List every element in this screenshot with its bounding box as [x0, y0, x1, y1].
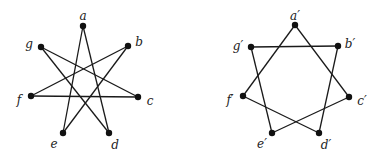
vertex-label-b: b [135, 35, 143, 49]
vertex-a [80, 23, 86, 29]
vertex-bp [335, 43, 341, 49]
vertex-label-c: c [147, 94, 154, 108]
vertex-label-e: e [50, 137, 57, 151]
vertex-label-ap: a′ [290, 9, 300, 23]
edge-ap-cp [295, 25, 349, 97]
edge-fp-dp [243, 96, 319, 133]
vertex-label-ep: e′ [257, 137, 267, 151]
vertex-f [28, 93, 34, 99]
vertex-e [60, 130, 66, 136]
vertex-label-gp: g′ [233, 39, 244, 53]
vertex-label-a: a [79, 9, 86, 23]
edge-f-c [31, 96, 138, 97]
edge-ep-cp [272, 97, 349, 133]
vertex-ep [269, 130, 275, 136]
vertex-fp [240, 93, 246, 99]
vertex-label-bp: b′ [345, 37, 356, 51]
edge-bp-dp [319, 46, 338, 133]
vertex-dp [316, 130, 322, 136]
vertex-label-fp: f′ [225, 93, 233, 107]
graph-right: a′b′c′d′e′f′g′ [225, 9, 367, 152]
vertex-label-g: g [25, 37, 33, 51]
vertex-b [125, 43, 131, 49]
vertex-label-cp: c′ [357, 94, 367, 108]
vertex-label-f: f [16, 93, 24, 107]
edge-ap-fp [243, 25, 295, 96]
vertex-g [38, 44, 44, 50]
vertex-label-dp: d′ [321, 138, 332, 152]
vertex-d [106, 130, 112, 136]
vertex-gp [248, 44, 254, 50]
vertex-c [135, 94, 141, 100]
graph-left: abcdefg [16, 9, 154, 152]
edge-b-e [63, 46, 128, 133]
graph-diagram: abcdefg a′b′c′d′e′f′g′ [0, 0, 380, 155]
vertex-cp [346, 94, 352, 100]
edge-gp-bp [251, 46, 338, 47]
vertex-label-d: d [111, 138, 119, 152]
